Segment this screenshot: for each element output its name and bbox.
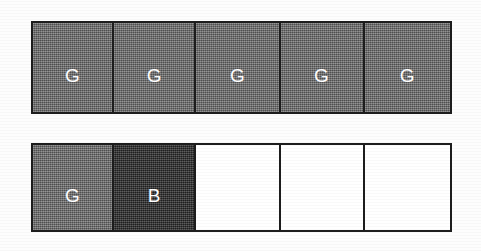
cell-top-1[interactable]: G: [33, 23, 114, 112]
cell-label: G: [230, 66, 245, 85]
cell-top-3[interactable]: G: [196, 23, 280, 112]
cell-bottom-4[interactable]: [281, 145, 365, 230]
cell-label: G: [314, 66, 329, 85]
cell-bottom-5[interactable]: [365, 145, 450, 230]
cell-top-2[interactable]: G: [114, 23, 196, 112]
cell-bottom-1[interactable]: G: [33, 145, 114, 230]
cell-label: G: [147, 66, 162, 85]
cell-top-5[interactable]: G: [365, 23, 450, 112]
bottom-row: G B: [31, 143, 452, 232]
cell-bottom-3[interactable]: [196, 145, 280, 230]
cell-label: G: [400, 66, 415, 85]
cell-label: G: [65, 66, 80, 85]
cell-label: B: [148, 186, 161, 205]
cell-label: G: [65, 186, 80, 205]
cell-top-4[interactable]: G: [281, 23, 365, 112]
top-row: G G G G G: [31, 21, 452, 114]
cell-bottom-2[interactable]: B: [114, 145, 196, 230]
figure-root: G G G G G G B: [0, 0, 481, 251]
